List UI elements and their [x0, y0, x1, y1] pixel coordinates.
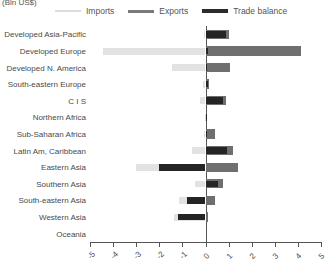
bar-group [90, 209, 321, 226]
bar-imports [103, 48, 206, 55]
legend-label-exports: Exports [159, 6, 188, 16]
bar-exports [206, 46, 302, 55]
category-label: Northern Africa [33, 113, 86, 122]
bar-group [90, 109, 321, 126]
bar-group [90, 142, 321, 159]
bar-trade-balance [187, 197, 205, 204]
bar-imports [192, 147, 206, 154]
legend-swatch-trade-balance [202, 9, 228, 13]
axis-tick [206, 242, 207, 247]
axis-tick [182, 242, 183, 247]
bar-group [90, 26, 321, 43]
legend-label-trade-balance: Trade balance [233, 6, 287, 16]
bar-trade-balance [159, 164, 205, 171]
axis-tick [321, 242, 322, 247]
axis-tick-label: -2 [155, 250, 166, 261]
axis-tick [90, 242, 91, 247]
axis-tick [252, 242, 253, 247]
bar-group [90, 76, 321, 93]
axis-tick [298, 242, 299, 247]
value-axis: -5-4-3-2-1012345 [90, 242, 321, 243]
category-label: Western Asia [39, 213, 86, 222]
bar-group [90, 92, 321, 109]
chart-legend: Imports Exports Trade balance [55, 6, 287, 16]
axis-tick [275, 242, 276, 247]
axis-tick-label: 1 [224, 252, 234, 262]
legend-swatch-imports [55, 10, 81, 12]
bar-exports [206, 63, 230, 72]
bar-trade-balance [206, 181, 219, 188]
axis-tick-label: -4 [109, 250, 120, 261]
axis-tick-label: -5 [86, 250, 97, 261]
axis-tick [136, 242, 137, 247]
bar-group [90, 126, 321, 143]
category-label: South-eastern Asia [18, 196, 86, 205]
bar-trade-balance [206, 97, 223, 104]
category-label: Developed Asia-Pacific [4, 30, 86, 39]
legend-swatch-exports [128, 10, 154, 13]
axis-unit-label: (Bln US$) [2, 0, 37, 7]
category-label: Developed Europe [20, 46, 86, 55]
axis-tick-label: 3 [271, 252, 281, 262]
bar-group [90, 176, 321, 193]
legend-label-imports: Imports [86, 6, 114, 16]
bar-exports [206, 163, 238, 172]
bar-trade-balance [206, 81, 208, 88]
axis-tick-label: 5 [317, 252, 326, 262]
bar-group [90, 43, 321, 60]
bar-trade-balance [206, 64, 208, 71]
bar-trade-balance [206, 48, 208, 55]
axis-tick-label: -1 [178, 250, 189, 261]
axis-tick [159, 242, 160, 247]
bar-group [90, 225, 321, 242]
bar-exports [206, 129, 215, 138]
category-label: Developed N. America [6, 63, 86, 72]
axis-tick-label: -3 [132, 250, 143, 261]
bar-imports [195, 181, 205, 188]
legend-item-imports: Imports [55, 6, 114, 16]
category-label: Oceania [56, 229, 86, 238]
bar-trade-balance [206, 147, 228, 154]
category-label: South-eastern Europe [8, 80, 86, 89]
axis-tick-label: 4 [294, 252, 304, 262]
axis-tick-label: 0 [201, 252, 211, 262]
category-label: Sub-Saharan Africa [17, 130, 86, 139]
legend-item-exports: Exports [128, 6, 188, 16]
bar-group [90, 159, 321, 176]
legend-item-trade-balance: Trade balance [202, 6, 287, 16]
category-label: Southern Asia [36, 179, 86, 188]
axis-tick [113, 242, 114, 247]
bar-group [90, 192, 321, 209]
bar-exports [206, 212, 208, 221]
bar-trade-balance [206, 131, 207, 138]
bar-trade-balance [178, 214, 206, 221]
axis-tick-label: 2 [247, 252, 257, 262]
bar-exports [206, 196, 215, 205]
category-label: Eastern Asia [41, 163, 86, 172]
bar-trade-balance [206, 114, 207, 121]
bar-imports [172, 64, 205, 71]
bar-trade-balance [206, 31, 227, 38]
category-axis-labels: Developed Asia-PacificDeveloped EuropeDe… [0, 26, 86, 242]
plot-area [90, 26, 321, 242]
category-label: C I S [68, 96, 86, 105]
bar-group [90, 59, 321, 76]
axis-tick [229, 242, 230, 247]
category-label: Latin Am, Caribbean [14, 146, 87, 155]
